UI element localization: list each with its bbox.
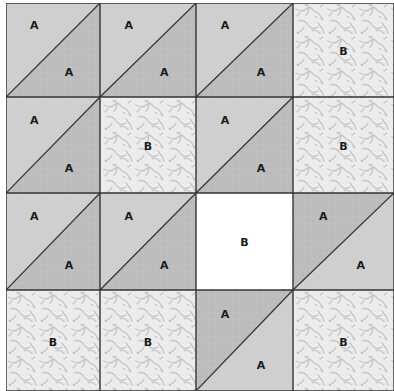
piece-label: A	[221, 114, 230, 127]
quilt-cell-print: B	[293, 3, 394, 97]
quilt-cell-hst: AA	[100, 193, 196, 290]
piece-label: A	[125, 210, 134, 223]
piece-label: A	[221, 308, 230, 321]
piece-label: A	[65, 66, 74, 79]
quilt-cell-plain: B	[196, 193, 293, 290]
quilt-canvas: AAAAAABAABAABAAAABAABBAAB	[6, 3, 394, 391]
quilt-cell-hst: AA	[196, 97, 293, 193]
piece-label: A	[30, 19, 39, 32]
piece-label: A	[65, 162, 74, 175]
piece-label: A	[356, 259, 365, 272]
piece-label: A	[125, 19, 134, 32]
piece-label: B	[339, 336, 347, 349]
quilt-diagram: AAAAAABAABAABAAAABAABBAAB	[6, 3, 394, 391]
quilt-cell-hst: AA	[6, 193, 100, 290]
piece-label: B	[144, 140, 152, 153]
quilt-cell-print: B	[100, 290, 196, 391]
quilt-cell-hst: AA	[196, 3, 293, 97]
quilt-cell-print: B	[6, 290, 100, 391]
quilt-cell-hst: AA	[6, 97, 100, 193]
quilt-cell-hst: AA	[196, 290, 293, 391]
piece-label: B	[339, 140, 347, 153]
piece-label: A	[257, 66, 266, 79]
piece-label: B	[240, 236, 248, 249]
piece-label: A	[257, 359, 266, 372]
quilt-cell-print: B	[293, 97, 394, 193]
piece-label: B	[49, 336, 57, 349]
quilt-cell-hst: AA	[100, 3, 196, 97]
quilt-cell-print: B	[293, 290, 394, 391]
piece-label: A	[30, 114, 39, 127]
piece-label: A	[160, 66, 169, 79]
piece-label: A	[160, 259, 169, 272]
piece-label: A	[319, 210, 328, 223]
piece-label: A	[257, 162, 266, 175]
quilt-cell-hst: AA	[6, 3, 100, 97]
quilt-cell-print: B	[100, 97, 196, 193]
piece-label: B	[339, 45, 347, 58]
quilt-cell-hst: AA	[293, 193, 394, 290]
piece-label: A	[30, 210, 39, 223]
piece-label: B	[144, 336, 152, 349]
piece-label: A	[221, 19, 230, 32]
piece-label: A	[65, 259, 74, 272]
